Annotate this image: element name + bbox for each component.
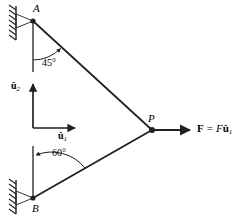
node-dot-a [30, 18, 35, 23]
member-ap [33, 21, 152, 130]
u2-base: û [11, 80, 17, 91]
angle-label-60: 60° [52, 148, 66, 158]
angle-label-45: 45° [42, 58, 56, 68]
force-unit-vector-subscript: 1 [229, 128, 233, 136]
force-unit-vector-base: û [223, 122, 229, 134]
u2-subscript: 2 [17, 85, 21, 93]
node-label-a: A [33, 3, 40, 14]
wall-support-b [9, 179, 33, 214]
force-magnitude: F [216, 122, 223, 134]
u1-subscript: 1 [64, 135, 68, 143]
member-bp [33, 130, 152, 198]
unit-vector-u1-label: û 1 [58, 131, 67, 143]
wall-support-a [9, 5, 33, 40]
force-equals: = [204, 122, 216, 134]
force-symbol: F [197, 122, 204, 134]
force-label: F=Fû1 [197, 123, 232, 136]
node-label-b: B [32, 203, 39, 214]
figure-canvas [0, 0, 243, 224]
u1-base: û [58, 130, 64, 141]
unit-vector-u2-label: û 2 [11, 81, 20, 93]
node-dot-b [30, 195, 35, 200]
statics-figure: A B P 45° 60° û 2 û 1 F=Fû1 [0, 0, 243, 224]
node-label-p: P [148, 113, 155, 124]
